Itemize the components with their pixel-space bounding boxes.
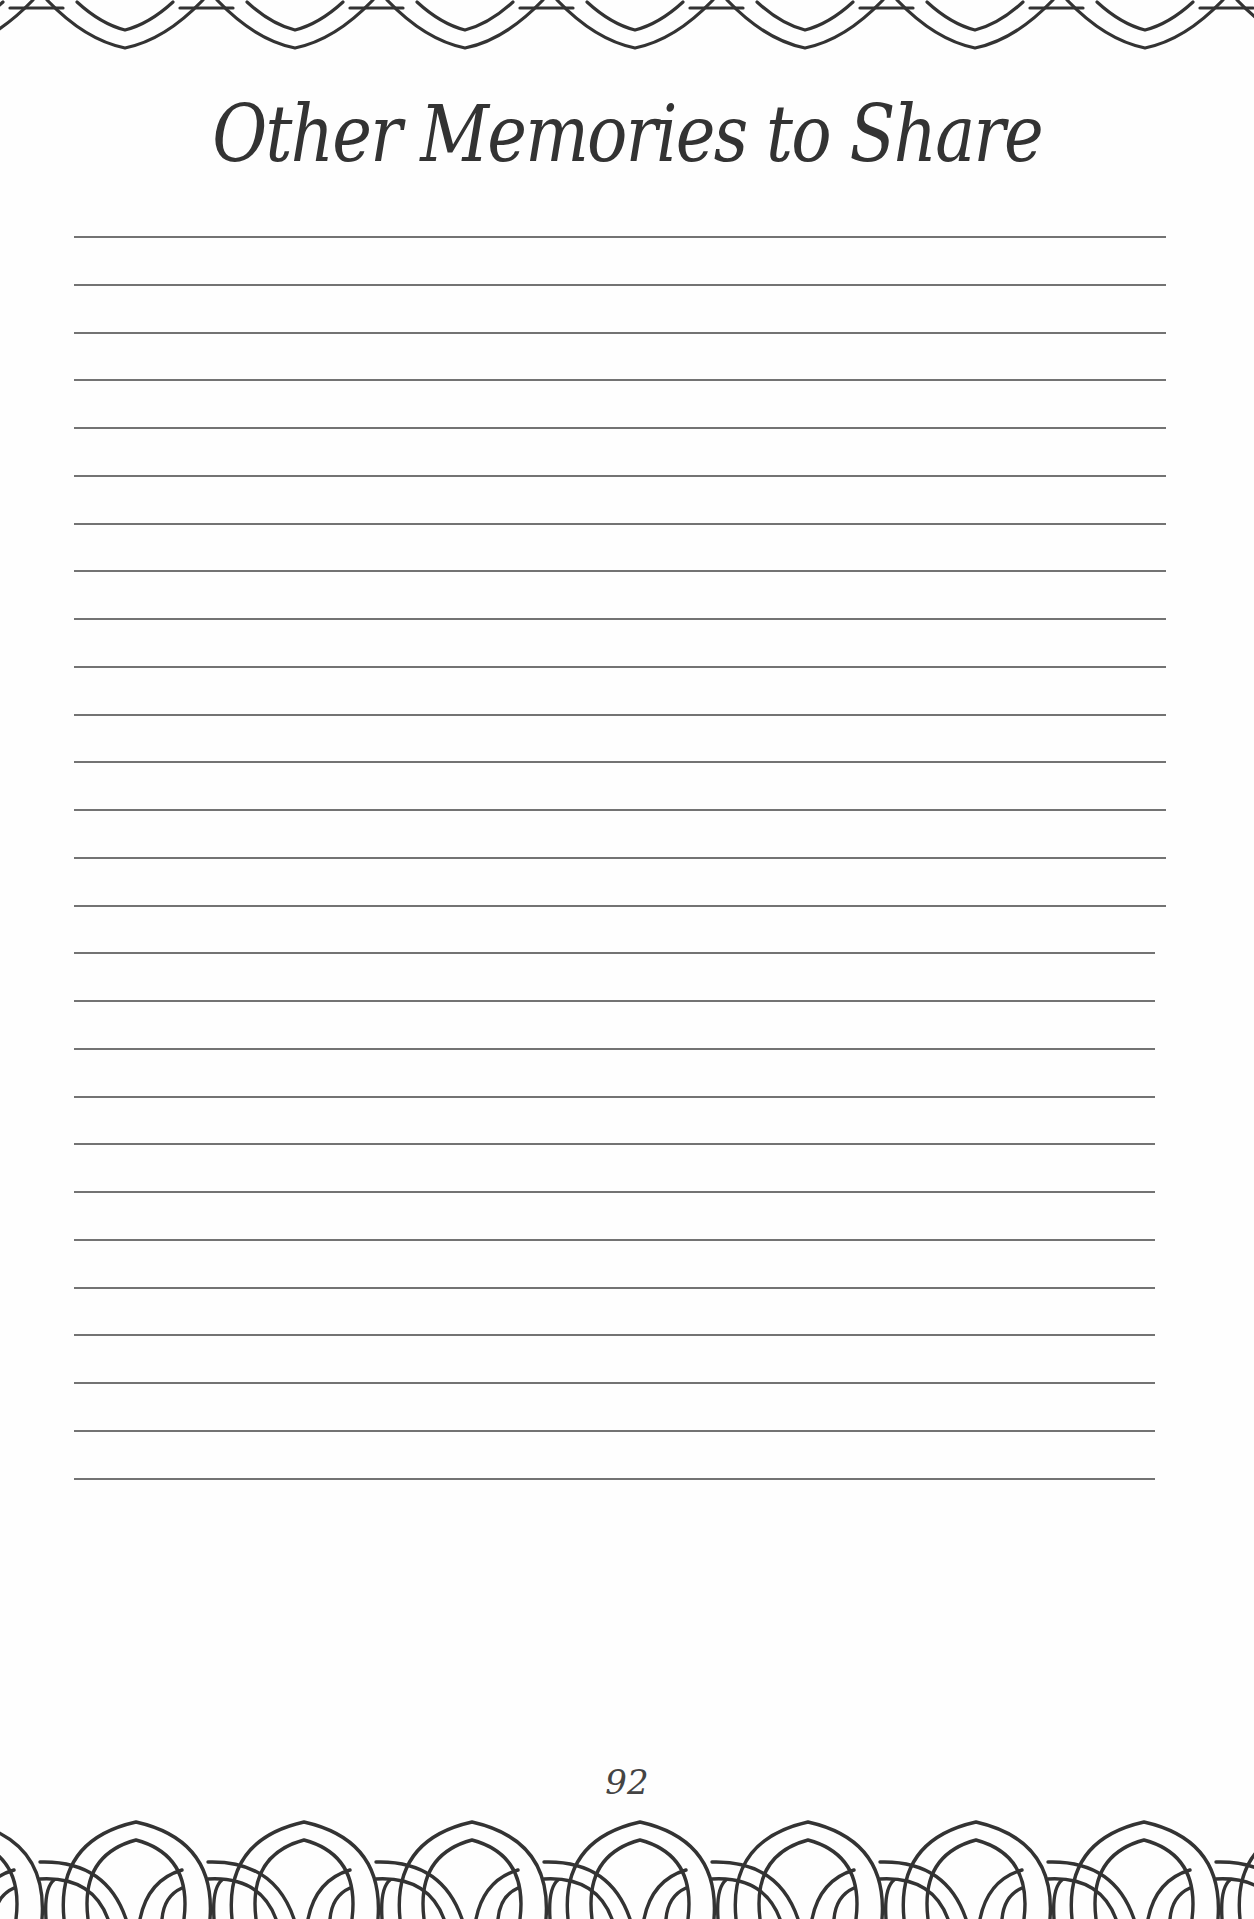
page-number: 92 <box>0 1762 1254 1802</box>
writing-line <box>74 618 1166 620</box>
writing-line <box>74 809 1166 811</box>
writing-line <box>74 1478 1155 1480</box>
writing-line <box>74 1191 1155 1193</box>
writing-line <box>74 1048 1155 1050</box>
writing-line <box>74 1287 1155 1289</box>
writing-line <box>74 905 1166 907</box>
writing-line <box>74 379 1166 381</box>
writing-line <box>74 714 1166 716</box>
writing-line <box>74 1382 1155 1384</box>
journal-page: Other Memories to Share 92 <box>0 0 1254 1919</box>
writing-line <box>74 952 1155 954</box>
writing-line <box>74 236 1166 238</box>
writing-lines <box>0 0 1254 1919</box>
interlocking-arc-border-icon <box>0 1800 1254 1919</box>
writing-line <box>74 761 1166 763</box>
writing-line <box>74 427 1166 429</box>
writing-line <box>74 1096 1155 1098</box>
writing-line <box>74 284 1166 286</box>
writing-line <box>74 1143 1155 1145</box>
writing-line <box>74 1334 1155 1336</box>
writing-line <box>74 1000 1155 1002</box>
writing-line <box>74 1239 1155 1241</box>
writing-line <box>74 857 1166 859</box>
writing-line <box>74 666 1166 668</box>
writing-line <box>74 475 1166 477</box>
writing-line <box>74 1430 1155 1432</box>
writing-line <box>74 332 1166 334</box>
writing-line <box>74 523 1166 525</box>
writing-line <box>74 570 1166 572</box>
